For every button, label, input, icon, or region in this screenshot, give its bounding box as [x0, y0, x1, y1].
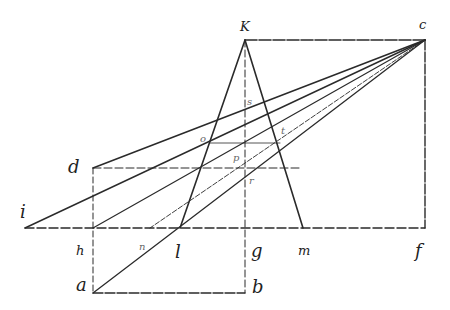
point-label-g: g: [251, 242, 263, 260]
perspective-diagram: [0, 0, 450, 310]
point-label-a: a: [76, 276, 87, 294]
point-label-C: c: [419, 18, 426, 31]
point-label-b: b: [252, 278, 264, 296]
point-label-l: l: [175, 243, 181, 261]
point-label-i: i: [20, 203, 26, 221]
line-C-d: [93, 40, 425, 168]
line-K-m: [245, 40, 303, 228]
line-C-h: [93, 40, 425, 228]
point-label-r: r: [249, 176, 254, 186]
line-K-l: [180, 40, 245, 228]
point-label-m: m: [298, 244, 310, 257]
point-label-p: p: [233, 153, 239, 163]
point-label-d: d: [68, 158, 80, 176]
point-label-h: h: [76, 244, 84, 257]
line-C-n: [150, 40, 425, 228]
point-label-s: s: [247, 97, 252, 107]
point-label-n: n: [139, 242, 145, 252]
point-label-f: f: [415, 242, 422, 260]
point-label-o: o: [200, 134, 206, 144]
line-C-i: [25, 40, 425, 228]
point-label-t: t: [281, 126, 285, 136]
point-label-K: K: [240, 20, 250, 33]
